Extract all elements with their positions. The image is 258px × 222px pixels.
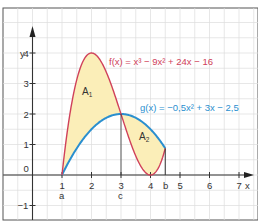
svg-text:2: 2 (24, 109, 29, 120)
point-a-label: a (59, 190, 65, 201)
f-function-label: f(x) = x³ − 9x² + 24x − 16 (109, 56, 213, 67)
svg-text:2: 2 (89, 180, 94, 191)
g-function-label: g(x) = −0,5x² + 3x − 2,5 (140, 102, 239, 113)
y-axis-label: y (20, 48, 25, 59)
svg-text:5: 5 (178, 180, 183, 191)
x-axis-label: x (245, 180, 250, 191)
svg-text:7: 7 (237, 180, 242, 191)
svg-text:3: 3 (24, 78, 29, 89)
svg-text:4: 4 (148, 180, 153, 191)
point-c-label: c (118, 190, 123, 201)
svg-text:0: 0 (24, 163, 29, 174)
svg-text:1: 1 (24, 139, 29, 150)
function-area-chart: 1234567−101234 y x a c b A1 A2 f(x) = x³… (0, 0, 258, 222)
svg-text:6: 6 (207, 180, 212, 191)
point-b-label: b (163, 180, 168, 191)
svg-text:−1: −1 (18, 200, 29, 211)
